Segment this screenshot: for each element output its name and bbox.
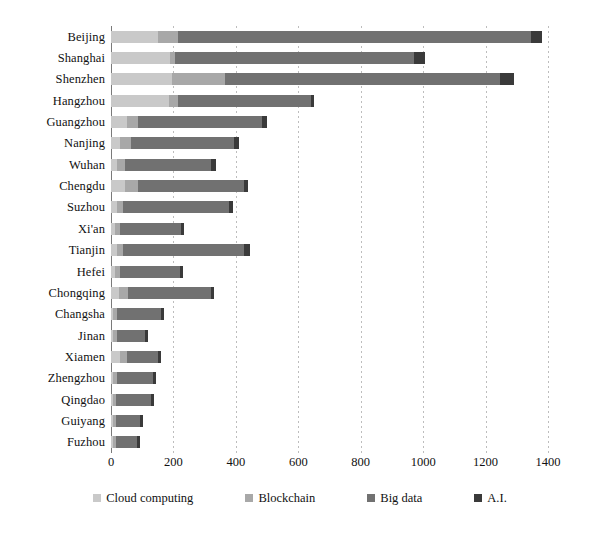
- bar-segment[interactable]: [140, 415, 143, 427]
- bar-row[interactable]: [111, 31, 548, 43]
- bar-segment[interactable]: [151, 394, 154, 406]
- category-label-shenzhen: Shenzhen: [0, 73, 105, 86]
- bar-segment[interactable]: [123, 201, 229, 213]
- bar-segment[interactable]: [234, 137, 239, 149]
- bar-segment[interactable]: [119, 287, 128, 299]
- bar-segment[interactable]: [111, 116, 127, 128]
- bar-segment[interactable]: [158, 351, 161, 363]
- bar-segment[interactable]: [138, 180, 244, 192]
- bar-segment[interactable]: [120, 266, 179, 278]
- x-tick-400: 400: [226, 456, 245, 469]
- bar-row[interactable]: [111, 266, 548, 278]
- bar-segment[interactable]: [211, 287, 214, 299]
- bar-segment[interactable]: [414, 52, 425, 64]
- bar-row[interactable]: [111, 180, 548, 192]
- bar-segment[interactable]: [131, 137, 234, 149]
- bar-segment[interactable]: [500, 73, 514, 85]
- legend-item[interactable]: A.I.: [474, 492, 506, 505]
- bar-row[interactable]: [111, 372, 548, 384]
- bar-row[interactable]: [111, 52, 548, 64]
- category-label-beijing: Beijing: [0, 31, 105, 44]
- bar-segment[interactable]: [111, 31, 158, 43]
- bar-segment[interactable]: [225, 73, 500, 85]
- bar-segment[interactable]: [111, 95, 169, 107]
- bar-segment[interactable]: [178, 95, 311, 107]
- bar-row[interactable]: [111, 137, 548, 149]
- bar-row[interactable]: [111, 95, 548, 107]
- category-label-guiyang: Guiyang: [0, 415, 105, 428]
- legend-label: Big data: [380, 492, 422, 505]
- bar-row[interactable]: [111, 73, 548, 85]
- bar-row[interactable]: [111, 394, 548, 406]
- bar-segment[interactable]: [175, 52, 414, 64]
- legend-swatch-icon: [93, 494, 101, 502]
- legend-label: Cloud computing: [106, 492, 193, 505]
- bar-row[interactable]: [111, 159, 548, 171]
- bar-segment[interactable]: [116, 436, 137, 448]
- gridline-1400: [548, 26, 549, 453]
- bar-segment[interactable]: [117, 159, 125, 171]
- bar-segment[interactable]: [172, 73, 225, 85]
- bar-segment[interactable]: [111, 73, 172, 85]
- category-label-suzhou: Suzhou: [0, 201, 105, 214]
- category-label-wuhan: Wuhan: [0, 159, 105, 172]
- bar-segment[interactable]: [128, 287, 211, 299]
- bar-segment[interactable]: [311, 95, 314, 107]
- bar-segment[interactable]: [211, 159, 216, 171]
- bar-segment[interactable]: [145, 330, 147, 342]
- bar-row[interactable]: [111, 330, 548, 342]
- bar-segment[interactable]: [531, 31, 542, 43]
- bar-segment[interactable]: [158, 31, 178, 43]
- bar-segment[interactable]: [111, 180, 125, 192]
- bar-segment[interactable]: [116, 394, 151, 406]
- x-tick-200: 200: [164, 456, 183, 469]
- bar-segment[interactable]: [116, 415, 140, 427]
- bar-segment[interactable]: [180, 266, 183, 278]
- bar-segment[interactable]: [111, 52, 170, 64]
- bar-segment[interactable]: [244, 244, 250, 256]
- bar-segment[interactable]: [181, 223, 184, 235]
- legend-label: A.I.: [487, 492, 506, 505]
- bar-segment[interactable]: [117, 308, 161, 320]
- bar-segment[interactable]: [111, 137, 120, 149]
- legend-swatch-icon: [474, 494, 482, 502]
- bar-segment[interactable]: [178, 31, 531, 43]
- bar-row[interactable]: [111, 415, 548, 427]
- bar-segment[interactable]: [120, 223, 181, 235]
- bar-segment[interactable]: [127, 351, 158, 363]
- bar-segment[interactable]: [120, 137, 131, 149]
- bar-row[interactable]: [111, 436, 548, 448]
- bar-row[interactable]: [111, 223, 548, 235]
- legend-item[interactable]: Cloud computing: [93, 492, 193, 505]
- bar-row[interactable]: [111, 116, 548, 128]
- bar-segment[interactable]: [117, 330, 145, 342]
- category-label-tianjin: Tianjin: [0, 244, 105, 257]
- legend-swatch-icon: [367, 494, 375, 502]
- bar-segment[interactable]: [137, 436, 140, 448]
- bar-segment[interactable]: [123, 244, 243, 256]
- x-tick-1200: 1200: [473, 456, 498, 469]
- category-label-nanjing: Nanjing: [0, 137, 105, 150]
- bar-row[interactable]: [111, 308, 548, 320]
- bar-segment[interactable]: [169, 95, 178, 107]
- bar-segment[interactable]: [244, 180, 249, 192]
- bar-segment[interactable]: [161, 308, 164, 320]
- legend-item[interactable]: Blockchain: [245, 492, 315, 505]
- bar-segment[interactable]: [138, 116, 263, 128]
- bar-segment[interactable]: [262, 116, 267, 128]
- bar-segment[interactable]: [153, 372, 156, 384]
- bar-row[interactable]: [111, 351, 548, 363]
- bar-segment[interactable]: [127, 116, 138, 128]
- bar-segment[interactable]: [125, 180, 137, 192]
- bar-segment[interactable]: [111, 351, 120, 363]
- bar-segment[interactable]: [229, 201, 233, 213]
- category-label-chengdu: Chengdu: [0, 180, 105, 193]
- bar-segment[interactable]: [111, 287, 119, 299]
- bar-row[interactable]: [111, 201, 548, 213]
- bar-row[interactable]: [111, 287, 548, 299]
- legend-item[interactable]: Big data: [367, 492, 422, 505]
- bar-segment[interactable]: [125, 159, 211, 171]
- bar-row[interactable]: [111, 244, 548, 256]
- chart-legend: Cloud computingBlockchainBig dataA.I.: [0, 487, 600, 509]
- bar-segment[interactable]: [117, 372, 153, 384]
